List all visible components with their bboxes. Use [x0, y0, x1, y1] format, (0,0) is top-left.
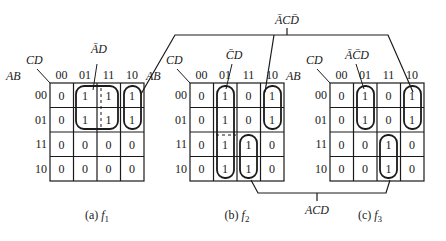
cell: 0: [362, 162, 368, 176]
cell: 1: [409, 89, 415, 103]
cell: 1: [269, 113, 275, 127]
kmap-f2: CD AB 00 01 11 10 00 01 11 10 0 1 0 1 0 …: [145, 53, 284, 181]
cell: 1: [82, 89, 88, 103]
cell: 0: [59, 89, 65, 103]
cell: 1: [362, 89, 368, 103]
caption-f3: (c)f3: [358, 208, 383, 224]
col-header: 10: [406, 68, 418, 82]
cell: 1: [246, 162, 252, 176]
cell: 0: [339, 138, 345, 152]
cell: 0: [339, 113, 345, 127]
caption-f1: (a)f1: [85, 208, 109, 224]
cell: 1: [269, 89, 275, 103]
term-label-f1: ĀD: [90, 42, 107, 56]
cell: 1: [222, 138, 228, 152]
cell: 1: [386, 162, 392, 176]
row-var-label: AB: [5, 69, 21, 83]
cell: 0: [409, 138, 415, 152]
kmap-f1: CD AB 00 01 11 10 00 01 11 10 0 1 1 1 0 …: [5, 53, 144, 181]
row-header: 01: [35, 113, 47, 127]
cell: 0: [129, 138, 135, 152]
col-header: 11: [103, 68, 115, 82]
cell: 0: [129, 162, 135, 176]
col-var-label: CD: [306, 53, 323, 67]
cell: 0: [409, 162, 415, 176]
cell: 0: [246, 89, 252, 103]
cell: 0: [199, 138, 205, 152]
row-header: 11: [175, 137, 187, 151]
col-var-label: CD: [166, 53, 183, 67]
cell: 1: [106, 89, 112, 103]
cell: 0: [59, 138, 65, 152]
shared-term-bottom-label: ACD: [304, 203, 329, 217]
cell: 0: [199, 113, 205, 127]
row-header: 11: [315, 137, 327, 151]
cell: 0: [269, 162, 275, 176]
col-header: 11: [243, 68, 255, 82]
caption-f2: (b)f2: [225, 208, 250, 224]
kmap-f3: CD AB 00 01 11 10 00 01 11 10 0 1 0 1 0 …: [285, 53, 424, 181]
cell: 1: [222, 89, 228, 103]
term-label-f2: C̄D: [226, 48, 243, 62]
col-header: 10: [266, 68, 278, 82]
row-header: 10: [35, 162, 47, 176]
cell: 1: [129, 89, 135, 103]
cell: 1: [362, 113, 368, 127]
row-header: 10: [175, 162, 187, 176]
cell: 1: [222, 113, 228, 127]
cell: 0: [199, 89, 205, 103]
row-header: 01: [315, 113, 327, 127]
corner-diagonal: [37, 69, 50, 83]
row-header: 11: [35, 137, 47, 151]
cell: 1: [106, 113, 112, 127]
cell: 1: [246, 138, 252, 152]
cell: 0: [59, 113, 65, 127]
cell: 0: [106, 138, 112, 152]
cell: 0: [82, 138, 88, 152]
term-label-f3: ĀC̄D: [344, 48, 369, 62]
row-header: 10: [315, 162, 327, 176]
cell: 0: [339, 89, 345, 103]
row-header: 00: [175, 88, 187, 102]
shared-term-top-label: ĀCD̄: [274, 13, 299, 27]
corner-diagonal: [177, 69, 190, 83]
cell: 0: [59, 162, 65, 176]
cell: 1: [409, 113, 415, 127]
corner-diagonal: [317, 69, 330, 83]
cell: 1: [82, 113, 88, 127]
cell: 1: [222, 162, 228, 176]
col-header: 01: [79, 68, 91, 82]
cell: 1: [129, 113, 135, 127]
col-header: 11: [383, 68, 395, 82]
cell: 0: [246, 113, 252, 127]
row-var-label: AB: [285, 69, 301, 83]
col-header: 00: [336, 68, 348, 82]
cell: 0: [386, 89, 392, 103]
cell: 0: [82, 162, 88, 176]
cell: 0: [386, 113, 392, 127]
cell: 0: [269, 138, 275, 152]
row-header: 00: [315, 88, 327, 102]
cell: 0: [362, 138, 368, 152]
row-var-label: AB: [145, 69, 161, 83]
cell: 0: [199, 162, 205, 176]
shared-term-bottom-connector: [251, 180, 390, 201]
row-header: 00: [35, 88, 47, 102]
cell: 0: [106, 162, 112, 176]
col-header: 00: [56, 68, 68, 82]
col-header: 00: [196, 68, 208, 82]
cell: 0: [339, 162, 345, 176]
col-var-label: CD: [26, 53, 43, 67]
karnaugh-diagram: ĀCD̄ ACD CD AB 00 01 11 10 00 01 11 10 0…: [0, 0, 446, 241]
row-header: 01: [175, 113, 187, 127]
cell: 1: [386, 138, 392, 152]
col-header: 10: [126, 68, 138, 82]
